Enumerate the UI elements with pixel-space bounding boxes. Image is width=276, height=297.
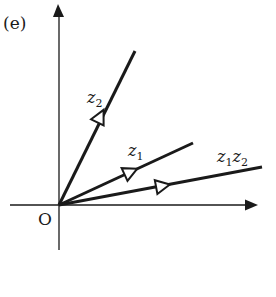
complex-vector-diagram: (e) O z2 z1 z1z2 — [0, 0, 276, 297]
x-axis-arrowhead-icon — [245, 200, 258, 211]
label-z1-sub: 1 — [136, 150, 143, 163]
label-z1: z1 — [127, 141, 143, 163]
label-z2-sub: 2 — [95, 97, 102, 110]
label-z1z2: z1z2 — [216, 147, 248, 169]
label-z1z2-sub-2: 2 — [241, 156, 248, 169]
y-axis-arrowhead-icon — [53, 4, 64, 17]
vector-z2 — [59, 51, 135, 205]
label-z2: z2 — [86, 88, 102, 110]
panel-label: (e) — [3, 13, 26, 33]
arrow-marker-z1z2-icon — [155, 178, 171, 194]
label-z1z2-sub-1: 1 — [225, 156, 232, 169]
arrow-marker-z1-icon — [122, 162, 141, 181]
origin-label: O — [38, 209, 52, 229]
